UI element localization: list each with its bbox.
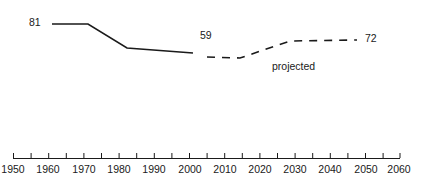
- x-tick-label: 2030: [283, 164, 306, 175]
- x-tick-label: 2000: [178, 164, 201, 175]
- series-line-historical: [52, 24, 193, 53]
- series-line-projected: [207, 40, 357, 58]
- data-label-end: 72: [365, 33, 377, 44]
- x-tick-label: 2020: [248, 164, 271, 175]
- x-tick-label: 2050: [354, 164, 377, 175]
- projected-annotation-label: projected: [272, 61, 315, 72]
- data-label-start: 81: [29, 17, 41, 28]
- x-tick-label: 2060: [387, 164, 410, 175]
- line-chart-figure: 81 59 72 projected 1950 1960 1970 1980 1…: [0, 0, 422, 191]
- x-tick-label: 1980: [107, 164, 130, 175]
- x-tick-label: 1970: [72, 164, 95, 175]
- x-tick-label: 2040: [318, 164, 341, 175]
- data-label-middle: 59: [200, 30, 212, 41]
- x-axis-ticks: [14, 153, 401, 158]
- x-axis-tick-labels: 1950 1960 1970 1980 1990 2000 2010 2020 …: [0, 164, 422, 180]
- x-tick-label: 1960: [36, 164, 59, 175]
- x-tick-label: 1950: [1, 164, 24, 175]
- x-tick-label: 1990: [142, 164, 165, 175]
- x-tick-label: 2010: [213, 164, 236, 175]
